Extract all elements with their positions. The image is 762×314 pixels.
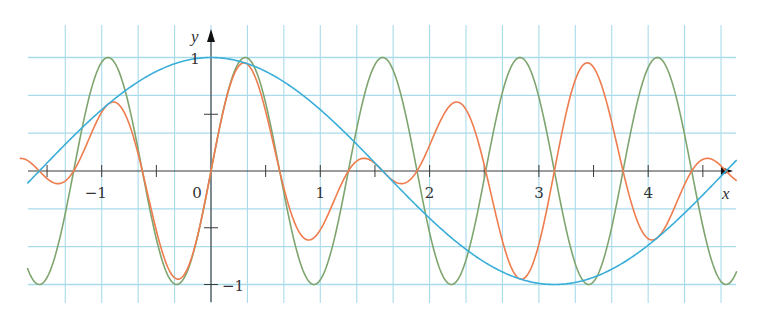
y-tick-label: −1 [222,277,244,295]
x-tick-label: 3 [534,184,544,202]
x-tick-label: 4 [643,184,653,202]
y-tick-label: 1 [190,50,200,68]
y-axis-label: y [189,27,199,46]
x-tick-label: 0 [192,184,202,202]
x-tick-label: 2 [425,184,435,202]
tick-labels: −1012341−1 [85,50,653,295]
x-tick-label: −1 [85,184,107,202]
y-axis-arrow-icon [207,29,215,42]
x-axis-label: x [721,184,730,203]
x-tick-label: 1 [316,184,326,202]
grid-lines [28,25,736,303]
function-plot: −1012341−1 x y [0,0,762,314]
